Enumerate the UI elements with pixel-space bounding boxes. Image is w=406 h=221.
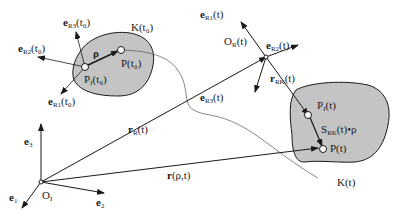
label-r-rho-t: r(ρ,t)	[167, 170, 191, 181]
label-er2-t: eR2(t)	[266, 40, 289, 53]
label-e1: e1	[9, 192, 17, 205]
point-p-t	[320, 146, 327, 153]
point-o-i	[39, 180, 43, 184]
point-p-i-t	[305, 112, 312, 119]
label-er3-t0: eR3(t₀)	[63, 17, 90, 30]
trajectory-curve	[124, 50, 318, 178]
point-p-i-t0	[82, 64, 89, 71]
label-er1-t0: eR1(t₀)	[48, 96, 75, 109]
label-o-i: OI	[42, 190, 52, 203]
label-p-i-t: PI(t)	[317, 100, 336, 113]
label-k-t: K(t)	[337, 177, 355, 188]
label-er2-t0: eR2(t₀)	[18, 43, 45, 56]
label-k-t0: K(t₀)	[131, 22, 153, 33]
label-s-rk-rho: SRK(t)•ρ	[321, 124, 357, 137]
label-er3-t: eR3(t)	[200, 92, 223, 105]
label-rho: ρ	[93, 48, 99, 59]
point-p-t0	[118, 47, 125, 54]
label-o-r: OR(t)	[224, 36, 247, 49]
label-p-t0: P(t₀)	[121, 58, 141, 69]
label-er1-t: eR1(t)	[200, 9, 223, 22]
label-r-r: rR(t)	[128, 124, 148, 137]
label-p-i-t0: PI(t₀)	[84, 74, 107, 87]
label-p-t: P(t)	[330, 143, 347, 154]
r-rk-vector	[266, 57, 308, 115]
label-r-rk: rRK(t)	[270, 73, 295, 86]
point-o-r	[264, 55, 268, 59]
label-e3: e3	[24, 136, 32, 149]
label-e2: e2	[96, 197, 104, 210]
e1-axis	[22, 182, 41, 208]
